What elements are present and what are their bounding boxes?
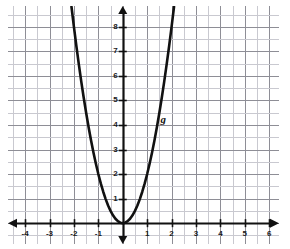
- y-axis-tick-label: 5: [108, 96, 118, 104]
- plot-area: -4-3-2-112345612345678 g: [8, 6, 279, 244]
- y-axis-tick-label: 3: [108, 146, 118, 154]
- y-axis-tick-label: 2: [108, 170, 118, 178]
- y-axis-tick-label: 7: [108, 47, 118, 55]
- x-axis-tick-label: 1: [145, 230, 149, 238]
- x-axis-tick-label: -1: [95, 230, 102, 238]
- y-axis-tick-label: 4: [108, 121, 118, 129]
- x-axis-tick-label: -3: [46, 230, 53, 238]
- x-axis-tick-label: 5: [243, 230, 247, 238]
- x-axis-tick-label: -4: [22, 230, 29, 238]
- graph-figure: -4-3-2-112345612345678 g: [0, 0, 290, 249]
- x-axis-tick-label: 2: [169, 230, 173, 238]
- x-axis-tick-label: 6: [267, 230, 271, 238]
- y-axis-tick-label: 6: [108, 72, 118, 80]
- x-axis-tick-label: -2: [70, 230, 77, 238]
- y-axis-tick-label: 1: [108, 195, 118, 203]
- parabola-curve: [8, 6, 279, 244]
- x-axis-tick-label: 4: [218, 230, 222, 238]
- curve-label-g: g: [161, 114, 167, 125]
- x-axis-tick-label: 3: [194, 230, 198, 238]
- y-axis-tick-label: 8: [108, 23, 118, 31]
